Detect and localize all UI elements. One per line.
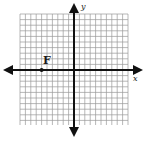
point-f-label: F [43, 55, 51, 66]
axes [3, 3, 143, 137]
points [40, 68, 44, 72]
point-f [40, 68, 44, 72]
coordinate-plane [0, 0, 148, 142]
x-axis-left-arrow-icon [3, 65, 13, 75]
y-axis-label: y [81, 3, 86, 11]
y-axis-down-arrow-icon [69, 127, 79, 137]
y-axis-up-arrow-icon [69, 3, 79, 13]
x-axis-label: x [133, 75, 138, 83]
